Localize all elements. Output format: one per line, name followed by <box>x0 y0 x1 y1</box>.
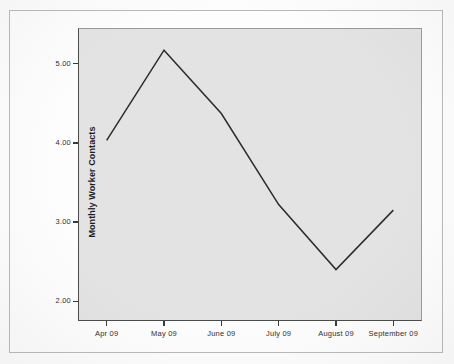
line-series-monthly-worker-contacts <box>107 50 394 269</box>
figure-canvas: Monthly Worker Contacts 2.003.004.005.00… <box>0 0 454 364</box>
data-series-layer <box>0 0 454 364</box>
plot-wrapper: Monthly Worker Contacts 2.003.004.005.00… <box>0 0 454 364</box>
